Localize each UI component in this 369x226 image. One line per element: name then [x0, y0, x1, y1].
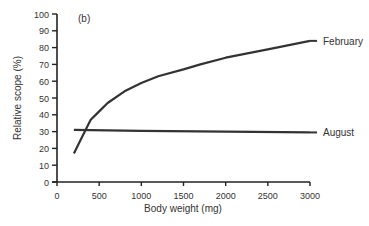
- series-label-february: February: [323, 36, 363, 47]
- axes: 0102030405060708090100050010001500200025…: [34, 10, 320, 202]
- y-tick-label: 30: [39, 127, 49, 137]
- line-chart: 0102030405060708090100050010001500200025…: [0, 0, 369, 226]
- x-tick-label: 0: [54, 191, 59, 201]
- chart: 0102030405060708090100050010001500200025…: [0, 0, 369, 226]
- y-tick-label: 60: [39, 77, 49, 87]
- y-tick-label: 100: [34, 10, 49, 20]
- y-tick-label: 80: [39, 43, 49, 53]
- x-tick-label: 1000: [131, 191, 151, 201]
- x-tick-label: 500: [92, 191, 107, 201]
- y-tick-label: 10: [39, 161, 49, 171]
- series-line-february: [74, 41, 310, 153]
- x-axis-label: Body weight (mg): [144, 203, 222, 214]
- series-label-august: August: [323, 127, 354, 138]
- series-line-august: [74, 130, 310, 133]
- x-tick-label: 2000: [216, 191, 236, 201]
- panel-label: (b): [78, 13, 90, 24]
- y-tick-label: 50: [39, 94, 49, 104]
- y-tick-label: 70: [39, 60, 49, 70]
- x-tick-label: 2500: [258, 191, 278, 201]
- y-tick-label: 40: [39, 110, 49, 120]
- y-tick-label: 90: [39, 26, 49, 36]
- x-tick-label: 3000: [300, 191, 320, 201]
- y-tick-label: 0: [44, 178, 49, 188]
- x-tick-label: 1500: [173, 191, 193, 201]
- y-axis-label: Relative scope (%): [12, 56, 23, 140]
- series-lines: FebruaryAugust: [74, 36, 363, 154]
- y-tick-label: 20: [39, 144, 49, 154]
